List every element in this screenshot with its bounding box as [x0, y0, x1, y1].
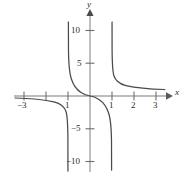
- x-tick-label-1: 1: [109, 101, 114, 110]
- y-tick-label-10: 10: [71, 26, 80, 35]
- function-graph-figure: −3 1 1 2 3 10 5 −5 −10 x y: [0, 0, 184, 180]
- x-tick-label-neg1: 1: [65, 101, 70, 110]
- y-tick-label-neg5: −5: [71, 124, 81, 133]
- x-tick-label-2: 2: [131, 101, 136, 110]
- y-tick-label-neg10: −10: [66, 157, 80, 166]
- y-axis-arrow-icon: [86, 9, 93, 16]
- x-tick-label-neg3: −3: [17, 101, 27, 110]
- y-axis-label: y: [87, 0, 91, 9]
- x-tick-label-3: 3: [153, 101, 158, 110]
- graph-canvas: [0, 0, 184, 180]
- y-tick-label-5: 5: [77, 59, 82, 68]
- curve-branch-right: [112, 22, 165, 90]
- x-axis-label: x: [175, 88, 179, 97]
- x-axis-arrow-icon: [166, 92, 173, 100]
